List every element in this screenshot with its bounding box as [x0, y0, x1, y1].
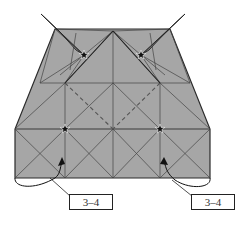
paper-body — [15, 29, 210, 178]
step-label-right: 3–4 — [191, 194, 235, 210]
step-label-left: 3–4 — [69, 194, 113, 210]
